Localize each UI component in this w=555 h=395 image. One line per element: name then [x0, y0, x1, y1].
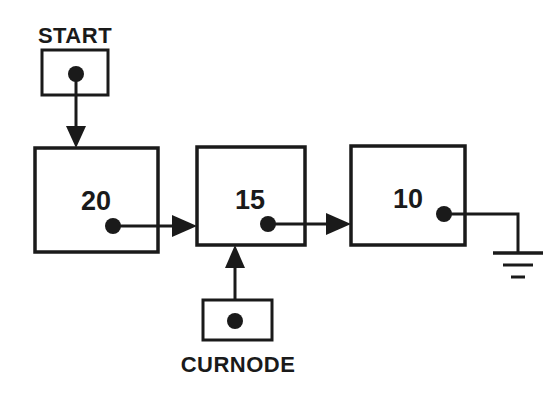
- arrow-head-up-curnode: [225, 245, 245, 268]
- curnode-label: CURNODE: [181, 352, 296, 377]
- arrow-head-right-node20: [172, 215, 197, 237]
- node-15-value: 15: [235, 185, 265, 215]
- ground-icon: [493, 253, 543, 277]
- diagram-canvas: START 20 15: [0, 0, 555, 395]
- curnode-pointer-dot: [227, 313, 243, 329]
- list-node-10[interactable]: 10: [351, 146, 465, 245]
- pointer-box-curnode[interactable]: CURNODE: [181, 300, 296, 377]
- arrow-head-right-node15: [326, 213, 351, 235]
- linked-list-diagram: START 20 15: [0, 0, 555, 395]
- start-label: START: [38, 23, 112, 48]
- list-node-15[interactable]: 15: [197, 147, 305, 245]
- node-10-value: 10: [393, 184, 423, 214]
- list-node-20[interactable]: 20: [35, 148, 158, 252]
- node-20-value: 20: [81, 186, 111, 216]
- arrow-head-down-start: [66, 126, 86, 148]
